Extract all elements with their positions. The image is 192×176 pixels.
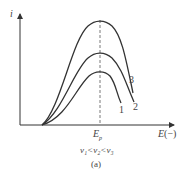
condition-text: v₁<v₂<v₃ (80, 145, 114, 155)
peak-label: Ep (93, 128, 102, 141)
curve-label-1: 1 (119, 104, 124, 115)
caption: (a) (91, 159, 101, 169)
curve-label-2: 2 (133, 101, 138, 112)
peak-label-sub: p (99, 135, 102, 141)
curve-1 (42, 72, 121, 125)
curve-label-3: 3 (129, 74, 134, 85)
figure: i E(−) Ep 1 2 3 v₁<v₂<v₃ (a) (0, 0, 192, 176)
y-axis-label: i (10, 8, 13, 19)
x-axis-label: E(−) (158, 128, 176, 139)
